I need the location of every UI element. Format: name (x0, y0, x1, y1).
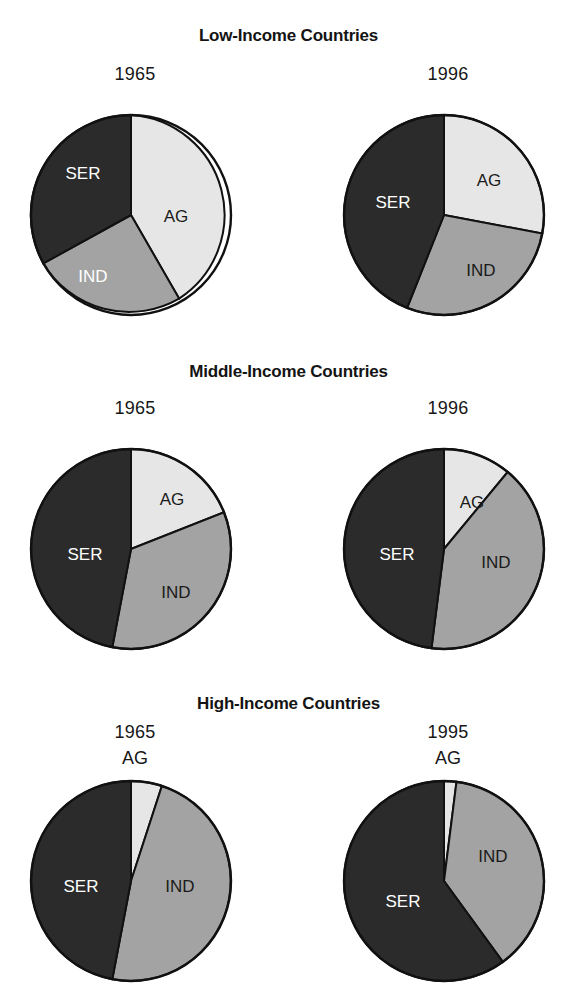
pie-label-ag: AG (160, 490, 185, 509)
pie-label-ser: SER (66, 164, 101, 183)
pie-chart-high-income-1995: IND SER (341, 778, 547, 987)
section-title-middle-income: Middle-Income Countries (0, 362, 577, 382)
pie-label-ind: IND (165, 877, 194, 896)
pie-label-ind: IND (478, 847, 507, 866)
pie-label-ind: IND (161, 583, 190, 602)
pie-chart-middle-income-1996: AG IND SER (341, 446, 547, 656)
pie-label-ind: IND (78, 267, 107, 286)
pie-label-ind: IND (481, 553, 510, 572)
pie-chart-low-income-1965: AG IND SER (28, 112, 234, 322)
pie-label-ser: SER (386, 892, 421, 911)
pie-label-ser: SER (376, 193, 411, 212)
pie-chart-middle-income-1965: AG IND SER (28, 446, 234, 656)
pie-label-ag: AG (460, 493, 485, 512)
pie-label-ser: SER (64, 877, 99, 896)
year-label-middle-1996: 1996 (388, 398, 508, 419)
pie-label-ag: AG (477, 171, 502, 190)
pie-chart-high-income-1965: IND SER (28, 778, 234, 987)
callout-label-ag-high-1995: AG (408, 748, 488, 769)
pie-chart-low-income-1996: AG IND SER (341, 112, 547, 322)
pie-label-ser: SER (68, 545, 103, 564)
pie-label-ind: IND (466, 261, 495, 280)
callout-label-ag-high-1965: AG (95, 748, 175, 769)
pie-label-ag: AG (164, 207, 189, 226)
year-label-low-1996: 1996 (388, 64, 508, 85)
year-label-high-1965: 1965 (75, 722, 195, 743)
pie-label-ser: SER (380, 545, 415, 564)
year-label-middle-1965: 1965 (75, 398, 195, 419)
section-title-high-income: High-Income Countries (0, 694, 577, 714)
year-label-high-1995: 1995 (388, 722, 508, 743)
section-title-low-income: Low-Income Countries (0, 26, 577, 46)
year-label-low-1965: 1965 (75, 64, 195, 85)
